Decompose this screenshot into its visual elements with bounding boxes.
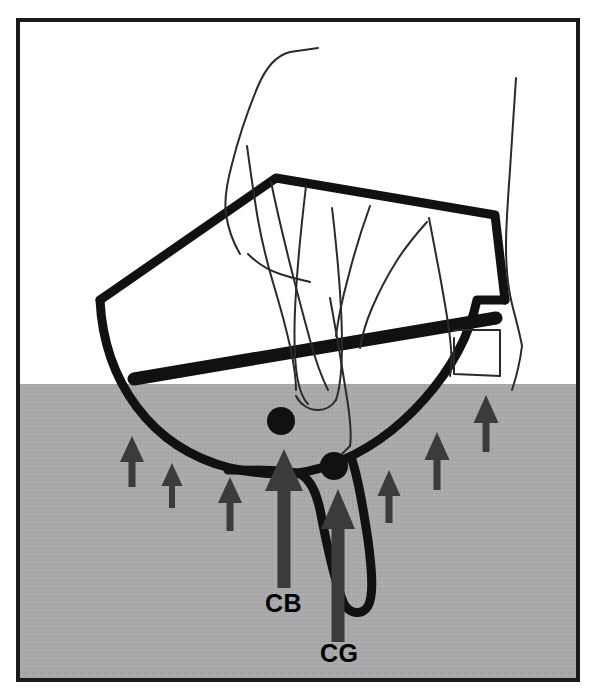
diagram-canvas: CB CG	[0, 0, 594, 697]
centre-of-gravity-dot	[320, 452, 348, 480]
buoyancy-diagram-figure: CB CG	[0, 0, 594, 697]
cg-label: CG	[320, 639, 359, 667]
centre-of-buoyancy-dot	[267, 407, 295, 435]
water-region	[20, 384, 576, 678]
cb-label: CB	[265, 589, 302, 617]
